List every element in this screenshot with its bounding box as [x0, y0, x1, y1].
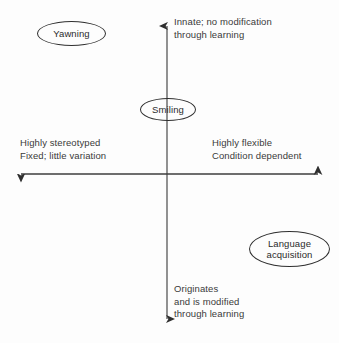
node-smiling: Smiling — [140, 98, 196, 121]
node-yawning: Yawning — [37, 21, 106, 46]
node-language-acquisition: Language acquisition — [249, 231, 330, 267]
axis-label-bottom: Originates and is modified through learn… — [174, 283, 244, 321]
axis-label-right: Highly flexible Condition dependent — [212, 137, 302, 162]
behaviour-continuum-diagram: Innate; no modification through learning… — [0, 0, 339, 343]
axis-label-left: Highly stereotyped Fixed; little variati… — [20, 137, 106, 162]
axis-label-top: Innate; no modification through learning — [174, 16, 272, 41]
axes-svg — [0, 0, 339, 343]
